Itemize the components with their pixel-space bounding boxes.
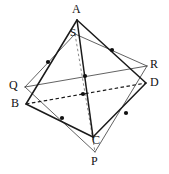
edge-D-C (93, 83, 146, 137)
vertex-label-R: R (150, 58, 158, 70)
outer-tetrahedron-edges (26, 20, 146, 137)
vertex-label-P: P (91, 155, 98, 167)
edge-B-C (26, 104, 93, 137)
midpoint-ad (110, 48, 114, 52)
geometry-figure: A S Q B R D C P (0, 0, 169, 174)
vertex-label-A: A (72, 3, 81, 15)
vertex-label-C: C (92, 134, 100, 146)
edge-Q-P (25, 87, 95, 152)
midpoint-bd-interior (81, 92, 85, 96)
vertex-label-B: B (11, 97, 19, 109)
edge-A-C (77, 20, 93, 137)
midpoint-dc (124, 111, 128, 115)
midpoint-bc (60, 116, 64, 120)
midpoint-qr-upper (83, 74, 87, 78)
vertex-label-S: S (70, 27, 76, 38)
vertex-label-D: D (150, 76, 159, 88)
edge-Q-S (25, 34, 75, 87)
vertex-label-Q: Q (9, 79, 18, 91)
geometry-canvas (0, 0, 169, 174)
midpoint-ab (46, 60, 50, 64)
edge-midpoint-dots (46, 48, 128, 120)
